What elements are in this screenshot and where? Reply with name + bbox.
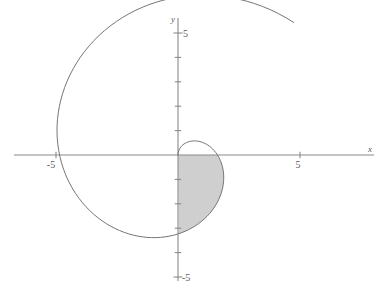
x-tick-label-neg5: -5 bbox=[47, 159, 55, 170]
plot-canvas: x y -5 5 5 -5 bbox=[0, 0, 392, 292]
x-tick-label-pos5: 5 bbox=[296, 159, 301, 170]
spiral-plot-svg: x y -5 5 5 -5 bbox=[0, 0, 392, 292]
y-tick-label-pos5: 5 bbox=[183, 28, 188, 39]
x-axis-label: x bbox=[367, 144, 372, 154]
y-tick-label-neg5: -5 bbox=[182, 272, 190, 283]
spiral-curve bbox=[57, 0, 294, 238]
y-axis-label: y bbox=[170, 14, 175, 24]
